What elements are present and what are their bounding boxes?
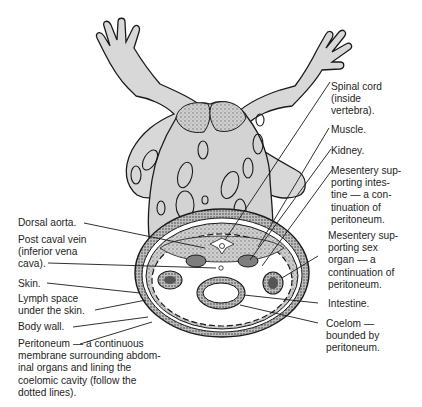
- label-coelom: Coelom — bounded by peritoneum.: [326, 318, 380, 355]
- label-peritoneum: Peritoneum — a continuous membrane surro…: [18, 338, 161, 399]
- cross-section: [135, 209, 309, 337]
- label-post-caval-vein: Post caval vein (inferior vena cava).: [18, 234, 87, 271]
- label-spinal-cord: Spinal cord (inside vertebra).: [331, 81, 382, 118]
- label-dorsal-aorta: Dorsal aorta.: [18, 217, 76, 229]
- label-mesentery-intestine: Mesentery sup- porting intes- tine — a c…: [331, 165, 401, 226]
- label-intestine: Intestine.: [328, 298, 369, 310]
- label-mesentery-sex-organ: Mesentery sup- porting sex organ — a con…: [328, 230, 398, 291]
- label-skin: Skin.: [18, 278, 41, 290]
- label-muscle: Muscle.: [331, 124, 366, 136]
- label-kidney: Kidney.: [331, 145, 364, 157]
- label-lymph-space: Lymph space under the skin.: [18, 293, 85, 317]
- label-body-wall: Body wall.: [18, 321, 64, 333]
